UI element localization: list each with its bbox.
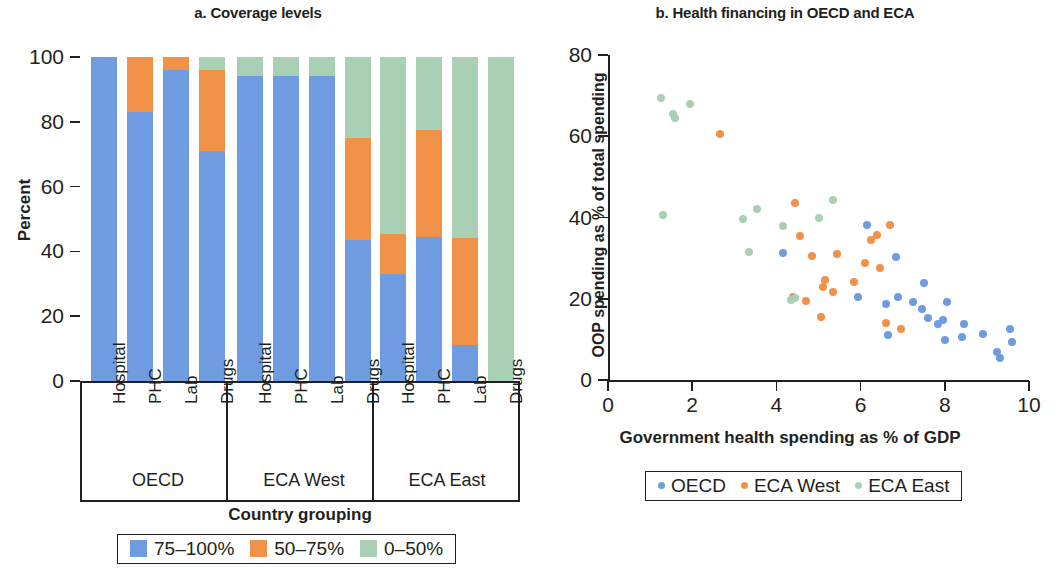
panel-a-category-label: Drugs	[508, 388, 525, 404]
stacked-bar	[416, 57, 442, 381]
panel-b-y-axis-title: OOP spending as % of total spending	[590, 65, 608, 365]
panel-a-y-tick-label: 80	[14, 111, 64, 132]
legend-item: ECA West	[741, 476, 840, 495]
scatter-point	[796, 232, 804, 240]
panel-a-group-label: OECD	[88, 470, 228, 491]
panel-b-x-tick	[860, 381, 862, 391]
scatter-point	[686, 100, 694, 108]
scatter-point	[979, 330, 987, 338]
panel-a-x-axis-title: Country grouping	[80, 505, 520, 525]
bar-segment	[380, 57, 406, 234]
scatter-point	[876, 264, 884, 272]
panel-a-y-tick	[70, 380, 80, 382]
scatter-point	[918, 305, 926, 313]
scatter-point	[1006, 325, 1014, 333]
panel-b-x-tick-label: 6	[841, 394, 881, 415]
panel-b-y-tick-label: 40	[542, 207, 592, 228]
stacked-bar	[91, 57, 117, 381]
stacked-bar	[273, 57, 299, 381]
scatter-point	[753, 205, 761, 213]
scatter-point	[884, 331, 892, 339]
panel-b-legend: OECDECA WestECA East	[645, 471, 962, 501]
scatter-point	[863, 221, 871, 229]
legend-swatch	[360, 540, 377, 557]
bar-segment	[452, 57, 478, 238]
bar-segment	[127, 112, 153, 381]
panel-a-y-tick-label: 100	[14, 46, 64, 67]
panel-b-x-axis-title: Government health spending as % of GDP	[550, 428, 1030, 448]
bar-segment	[345, 57, 371, 138]
panel-a-group-label: ECA West	[234, 470, 374, 491]
scatter-point	[958, 333, 966, 341]
scatter-point	[894, 293, 902, 301]
panel-a-category-label: PHC	[293, 388, 310, 404]
bar-segment	[416, 130, 442, 237]
scatter-point	[861, 259, 869, 267]
panel-a-category-label: Hospital	[400, 388, 417, 404]
scatter-point	[819, 283, 827, 291]
legend-label: 50–75%	[274, 539, 344, 558]
scatter-point	[882, 319, 890, 327]
scatter-point	[909, 298, 917, 306]
panel-b-x-tick-label: 2	[672, 394, 712, 415]
bar-segment	[309, 76, 335, 381]
legend-label: ECA East	[868, 476, 949, 495]
bar-segment	[416, 57, 442, 130]
legend-item: OECD	[658, 476, 726, 495]
stacked-bar	[199, 57, 225, 381]
bar-segment	[273, 76, 299, 381]
scatter-point	[716, 130, 724, 138]
legend-item: ECA East	[855, 476, 949, 495]
legend-label: 75–100%	[154, 539, 234, 558]
scatter-point	[779, 222, 787, 230]
panel-a-category-label: Drugs	[219, 388, 236, 404]
legend-label: OECD	[671, 476, 726, 495]
panel-b-x-tick-label: 4	[756, 394, 796, 415]
scatter-point	[960, 320, 968, 328]
panel-b-y-tick	[598, 217, 608, 219]
stacked-bar	[488, 57, 514, 381]
panel-b-plot-area	[608, 55, 1028, 380]
panel-a-y-tick	[70, 56, 80, 58]
legend-item: 0–50%	[360, 539, 443, 558]
panel-health-financing: b. Health financing in OECD and ECA OOP …	[530, 0, 1062, 571]
bar-segment	[488, 57, 514, 381]
panel-b-x-tick-label: 0	[588, 394, 628, 415]
scatter-point	[939, 316, 947, 324]
bar-segment	[309, 57, 335, 76]
panel-a-category-label: Lab	[472, 388, 489, 404]
scatter-point	[854, 293, 862, 301]
bar-segment	[380, 234, 406, 275]
panel-b-y-tick	[598, 54, 608, 56]
bar-segment	[199, 70, 225, 151]
scatter-point	[882, 300, 890, 308]
group-frame-left-edge	[80, 381, 82, 501]
scatter-point	[739, 215, 747, 223]
legend-label: ECA West	[754, 476, 840, 495]
stacked-bar	[127, 57, 153, 381]
scatter-point	[873, 231, 881, 239]
panel-b-title: b. Health financing in OECD and ECA	[530, 4, 1040, 21]
panel-b-y-tick-label: 0	[542, 369, 592, 390]
scatter-point	[657, 94, 665, 102]
panel-b-x-tick	[776, 381, 778, 391]
scatter-point	[791, 199, 799, 207]
panel-b-y-tick-label: 60	[542, 125, 592, 146]
panel-b-x-tick	[607, 381, 609, 391]
scatter-point	[787, 296, 795, 304]
panel-a-plot-area	[80, 57, 520, 381]
bar-segment	[127, 57, 153, 112]
bar-segment	[91, 57, 117, 381]
legend-item: 50–75%	[250, 539, 344, 558]
panel-a-y-tick-label: 40	[14, 240, 64, 261]
panel-a-y-tick	[70, 315, 80, 317]
panel-b-x-tick	[691, 381, 693, 391]
panel-b-x-tick	[1028, 381, 1030, 391]
scatter-point	[671, 114, 679, 122]
panel-a-category-label: Hospital	[111, 388, 128, 404]
panel-a-y-tick-label: 20	[14, 305, 64, 326]
bar-segment	[163, 70, 189, 381]
panel-a-category-label: PHC	[436, 388, 453, 404]
bar-segment	[237, 76, 263, 381]
bar-segment	[452, 238, 478, 345]
